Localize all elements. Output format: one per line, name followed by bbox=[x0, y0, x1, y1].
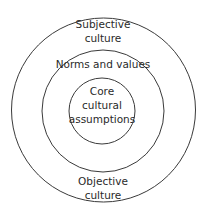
subjective-culture-line1: Subjective bbox=[76, 17, 131, 31]
subjective-culture-label: Subjective culture bbox=[76, 17, 131, 45]
objective-culture-line1: Objective bbox=[78, 174, 128, 188]
core-line3: assumptions bbox=[69, 112, 136, 126]
core-assumptions-label: Core cultural assumptions bbox=[69, 84, 136, 126]
objective-culture-line2: culture bbox=[78, 188, 128, 202]
core-line1: Core bbox=[69, 84, 136, 98]
objective-culture-label: Objective culture bbox=[78, 174, 128, 202]
norms-values-label: Norms and values bbox=[56, 57, 151, 71]
core-line2: cultural bbox=[69, 98, 136, 112]
subjective-culture-line2: culture bbox=[76, 31, 131, 45]
norms-values-text: Norms and values bbox=[56, 57, 151, 71]
